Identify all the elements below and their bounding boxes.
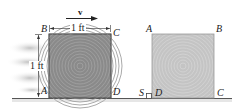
stop-block <box>147 94 152 99</box>
label-sliding-top-right: C <box>113 28 120 38</box>
ground-shadow <box>12 99 232 102</box>
label-tipping-bottom-right: C <box>217 88 224 98</box>
label-tipping-bottom-left: D <box>155 88 162 98</box>
label-sliding-bottom-right: D <box>113 87 120 97</box>
label-sliding-top-left: B <box>41 24 47 34</box>
width-label: 1 ft <box>70 23 86 33</box>
label-stop: S <box>139 88 144 98</box>
velocity-label: v <box>78 8 83 17</box>
height-label: 1 ft <box>29 61 45 71</box>
diagram-graphics <box>0 0 242 110</box>
crate-diagram: v 1 ft 1 ft B C A D A B D C S <box>0 0 242 110</box>
crate-sliding <box>38 24 122 108</box>
crate-tipping <box>141 24 225 108</box>
label-tipping-top-left: A <box>146 24 152 34</box>
label-tipping-top-right: B <box>216 24 222 34</box>
label-sliding-bottom-left: A <box>41 86 47 96</box>
